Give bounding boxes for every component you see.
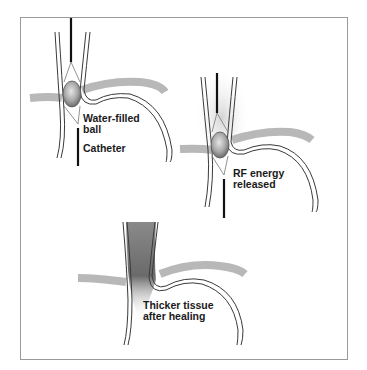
label-water-filled-ball: Water-filled ball (83, 113, 140, 135)
panel-2-rf-energy (180, 66, 318, 218)
panel-3-after-healing (78, 222, 245, 345)
water-filled-ball (63, 81, 81, 107)
label-catheter: Catheter (83, 143, 126, 154)
label-rf-energy-released: RF energy released (233, 168, 284, 190)
label-thicker-tissue: Thicker tissue after healing (143, 300, 214, 322)
